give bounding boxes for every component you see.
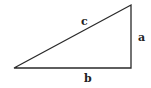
right-triangle-diagram: c a b	[0, 0, 151, 88]
label-a: a	[138, 31, 145, 44]
triangle-shape	[14, 5, 131, 68]
label-c: c	[81, 15, 88, 28]
label-b: b	[84, 72, 92, 85]
